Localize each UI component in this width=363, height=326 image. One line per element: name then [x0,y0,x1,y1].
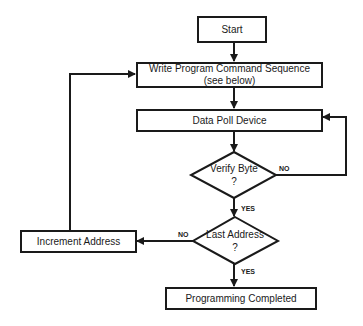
data-poll-label: Data Poll Device [193,115,267,127]
data-poll-node: Data Poll Device [136,109,323,132]
last-address-question: ? [195,241,275,254]
arrow-increment-to-write [70,74,135,230]
last-no-label: NO [178,231,189,238]
last-yes-label: YES [241,268,255,275]
write-program-label: Write Program Command Sequence [149,63,310,75]
programming-completed-node: Programming Completed [165,287,317,310]
increment-address-label: Increment Address [37,236,120,248]
flowchart-connectors [0,0,363,326]
verify-byte-node: Verify Byte ? [194,162,274,188]
increment-address-node: Increment Address [20,230,137,253]
start-node: Start [197,16,267,43]
last-address-node: Last Address ? [195,228,275,254]
start-label: Start [221,24,242,36]
write-program-sublabel: (see below) [204,75,256,87]
verify-no-label: NO [279,165,290,172]
verify-yes-label: YES [241,205,255,212]
programming-completed-label: Programming Completed [185,293,296,305]
verify-byte-label: Verify Byte [194,162,274,175]
write-program-node: Write Program Command Sequence (see belo… [136,62,323,88]
verify-byte-question: ? [194,175,274,188]
last-address-label: Last Address [195,228,275,241]
